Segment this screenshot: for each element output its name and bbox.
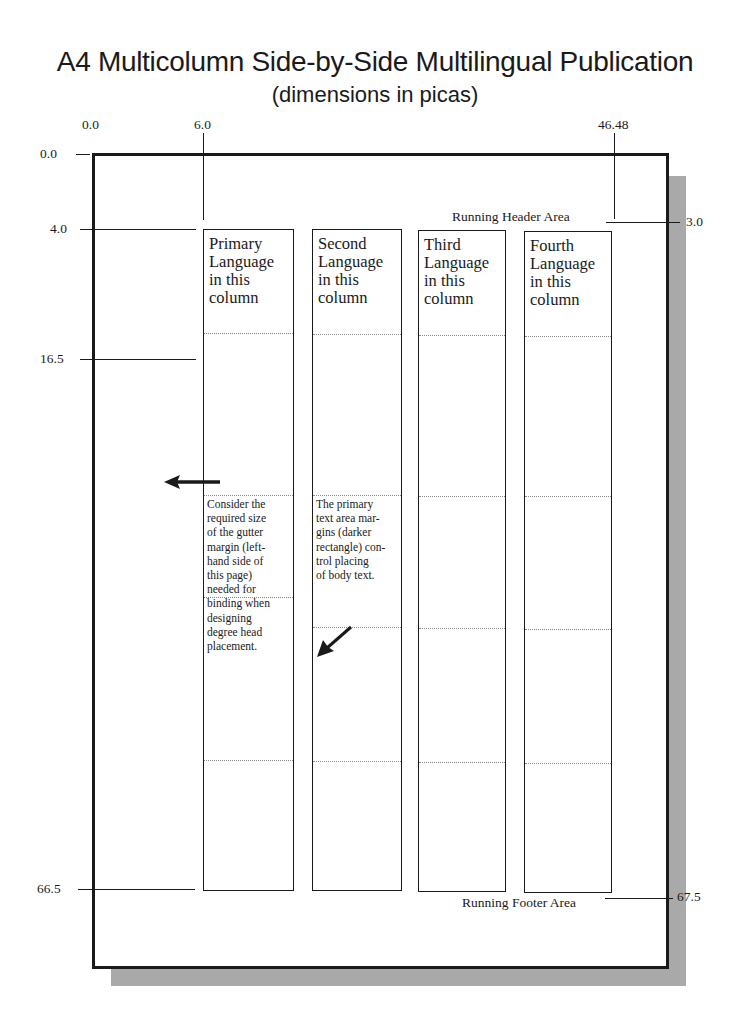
heading-line: in this: [424, 272, 489, 290]
running-footer-label: Running Footer Area: [462, 895, 576, 911]
heading-line: Third: [424, 236, 489, 254]
footer-guide-line: [605, 898, 673, 899]
note-line: needed for: [207, 582, 270, 596]
column-heading: Second Language in this column: [318, 235, 383, 307]
note-line: rectangle) con-: [316, 540, 385, 554]
guide-dotted-line: [313, 334, 401, 335]
heading-line: Language: [530, 255, 595, 273]
header-guide-line: [606, 222, 680, 223]
note-line: binding when: [207, 596, 270, 610]
column-heading: Third Language in this column: [424, 236, 489, 308]
guide-dotted-line: [525, 763, 611, 764]
heading-line: Language: [209, 253, 274, 271]
note-line: placement.: [207, 639, 270, 653]
guide-dotted-line: [419, 762, 505, 763]
gutter-note: Consider the required size of the gutter…: [207, 497, 270, 653]
guide-dotted-line: [525, 496, 611, 497]
diagram-title: A4 Multicolumn Side-by-Side Multilingual…: [0, 46, 750, 78]
column-heading: Primary Language in this column: [209, 235, 274, 307]
ruler-top-left-label: 0.0: [82, 117, 99, 133]
guide-dotted-line: [419, 628, 505, 629]
heading-line: column: [424, 290, 489, 308]
guide-dotted-line: [525, 336, 611, 337]
note-line: degree head: [207, 625, 270, 639]
ruler-top-gutter-label: 6.0: [194, 117, 211, 133]
ruler-left-top-label: 0.0: [40, 146, 57, 162]
note-line: text area mar-: [316, 511, 385, 525]
column-third-language: Third Language in this column: [418, 230, 506, 892]
heading-line: Primary: [209, 235, 274, 253]
ruler-right-footer-label: 67.5: [677, 889, 701, 905]
guide-dotted-line: [204, 495, 293, 496]
head-depth-guide-line: [80, 359, 196, 360]
heading-line: Second: [318, 235, 383, 253]
note-line: of the gutter: [207, 525, 270, 539]
heading-line: Language: [424, 254, 489, 272]
ruler-top-right-label: 46.48: [598, 117, 628, 133]
text-top-guide-line: [80, 229, 196, 230]
note-line: required size: [207, 511, 270, 525]
heading-line: in this: [209, 271, 274, 289]
note-line: gins (darker: [316, 525, 385, 539]
ruler-left-head-depth-label: 16.5: [40, 351, 64, 367]
note-line: The primary: [316, 497, 385, 511]
ruler-right-header-label: 3.0: [686, 214, 703, 230]
note-line: hand side of: [207, 554, 270, 568]
note-line: this page): [207, 568, 270, 582]
ruler-left-text-top-label: 4.0: [50, 221, 67, 237]
heading-line: in this: [530, 273, 595, 291]
note-line: margin (left-: [207, 540, 270, 554]
heading-line: Fourth: [530, 237, 595, 255]
guide-dotted-line: [419, 335, 505, 336]
column-fourth-language: Fourth Language in this column: [524, 231, 612, 893]
guide-dotted-line: [313, 761, 401, 762]
diagram-subtitle: (dimensions in picas): [0, 82, 750, 108]
right-margin-guide-line: [614, 133, 615, 219]
running-header-label: Running Header Area: [452, 209, 570, 225]
note-line: trol placing: [316, 554, 385, 568]
note-line: designing: [207, 611, 270, 625]
note-line: of body text.: [316, 568, 385, 582]
column-primary-language: Primary Language in this column Consider…: [203, 229, 294, 891]
margins-note: The primary text area mar- gins (darker …: [316, 497, 385, 582]
guide-dotted-line: [419, 496, 505, 497]
ruler-left-top-tick: [76, 154, 90, 155]
text-bottom-guide-line: [78, 889, 195, 890]
heading-line: column: [318, 289, 383, 307]
guide-dotted-line: [204, 333, 293, 334]
gutter-guide-line: [203, 133, 204, 220]
heading-line: in this: [318, 271, 383, 289]
note-line: Consider the: [207, 497, 270, 511]
guide-dotted-line: [313, 495, 401, 496]
arrow-left-icon: [160, 472, 225, 492]
heading-line: column: [209, 289, 274, 307]
guide-dotted-line: [204, 760, 293, 761]
column-second-language: Second Language in this column The prima…: [312, 229, 402, 891]
heading-line: column: [530, 291, 595, 309]
column-heading: Fourth Language in this column: [530, 237, 595, 309]
heading-line: Language: [318, 253, 383, 271]
arrow-down-left-icon: [315, 624, 355, 660]
ruler-left-text-bottom-label: 66.5: [37, 881, 61, 897]
guide-dotted-line: [525, 629, 611, 630]
